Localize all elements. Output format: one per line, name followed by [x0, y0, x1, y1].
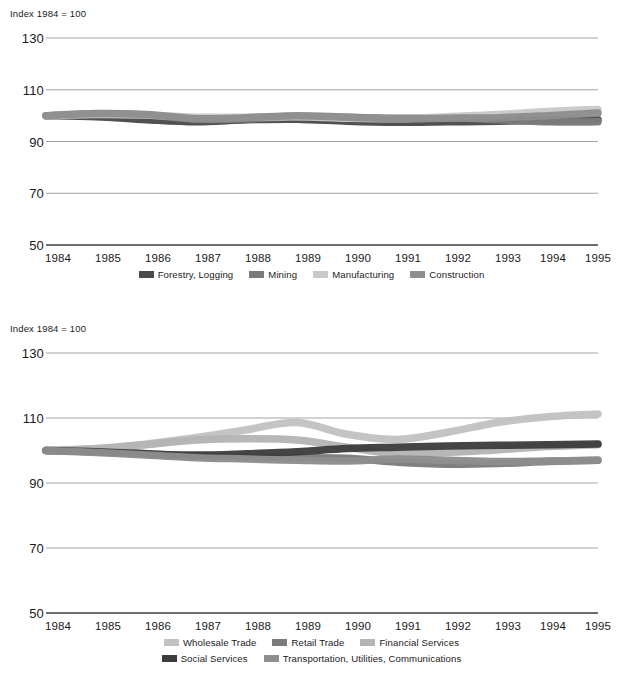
x-tick-1991: 1991 — [386, 620, 430, 632]
x-tick-1994: 1994 — [531, 252, 575, 264]
x-tick-1988: 1988 — [236, 620, 280, 632]
y-tick-50: 50 — [8, 238, 44, 253]
x-tick-1985: 1985 — [86, 252, 130, 264]
legend-swatch-icon — [360, 639, 375, 646]
legend-swatch-icon — [249, 271, 264, 278]
legend-item-wholesale-trade[interactable]: Wholesale Trade — [164, 636, 257, 649]
line-chart-industrial — [0, 0, 623, 260]
legend-label: Construction — [429, 268, 484, 281]
legend-swatch-icon — [139, 271, 154, 278]
legend-item-forestry-logging[interactable]: Forestry, Logging — [139, 268, 234, 281]
y-tick-110: 110 — [8, 411, 44, 426]
line-chart-services — [0, 315, 623, 645]
x-tick-1991: 1991 — [386, 252, 430, 264]
legend-swatch-icon — [264, 655, 279, 662]
x-tick-1987: 1987 — [186, 620, 230, 632]
x-tick-1992: 1992 — [436, 620, 480, 632]
x-tick-1986: 1986 — [136, 620, 180, 632]
x-tick-1990: 1990 — [336, 620, 380, 632]
legend-label: Transportation, Utilities, Communication… — [283, 652, 462, 665]
legend-label: Forestry, Logging — [158, 268, 234, 281]
legend-swatch-icon — [410, 271, 425, 278]
x-tick-1993: 1993 — [486, 252, 530, 264]
y-tick-90: 90 — [8, 135, 44, 150]
legend-item-financial-services[interactable]: Financial Services — [360, 636, 459, 649]
y-tick-90: 90 — [8, 476, 44, 491]
legend-swatch-icon — [272, 639, 287, 646]
x-tick-1990: 1990 — [336, 252, 380, 264]
y-tick-70: 70 — [8, 541, 44, 556]
x-tick-1987: 1987 — [186, 252, 230, 264]
legend-label: Mining — [268, 268, 297, 281]
x-tick-1984: 1984 — [36, 620, 80, 632]
x-tick-1995: 1995 — [576, 620, 620, 632]
legend-item-social-services[interactable]: Social Services — [162, 652, 248, 665]
x-tick-1992: 1992 — [436, 252, 480, 264]
x-tick-1995: 1995 — [576, 252, 620, 264]
legend-item-transportation-utilities-communications[interactable]: Transportation, Utilities, Communication… — [264, 652, 462, 665]
y-tick-50: 50 — [8, 606, 44, 621]
chart-panel-industrial: Index 1984 = 100 130 110 90 70 50 1984 1… — [0, 0, 623, 300]
legend-label: Manufacturing — [332, 268, 394, 281]
legend-industrial: Forestry, Logging Mining Manufacturing C… — [0, 268, 623, 281]
x-tick-1985: 1985 — [86, 620, 130, 632]
x-tick-1993: 1993 — [486, 620, 530, 632]
legend-item-retail-trade[interactable]: Retail Trade — [272, 636, 344, 649]
legend-swatch-icon — [164, 639, 179, 646]
legend-label: Retail Trade — [291, 636, 344, 649]
x-tick-1994: 1994 — [531, 620, 575, 632]
x-tick-1984: 1984 — [36, 252, 80, 264]
y-tick-130: 130 — [8, 346, 44, 361]
legend-item-mining[interactable]: Mining — [249, 268, 297, 281]
legend-label: Financial Services — [379, 636, 459, 649]
y-tick-130: 130 — [8, 31, 44, 46]
x-tick-1988: 1988 — [236, 252, 280, 264]
legend-swatch-icon — [162, 655, 177, 662]
x-tick-1986: 1986 — [136, 252, 180, 264]
y-tick-110: 110 — [8, 83, 44, 98]
x-tick-1989: 1989 — [286, 620, 330, 632]
x-tick-1989: 1989 — [286, 252, 330, 264]
legend-item-construction[interactable]: Construction — [410, 268, 484, 281]
legend-label: Social Services — [181, 652, 248, 665]
legend-item-manufacturing[interactable]: Manufacturing — [313, 268, 394, 281]
y-tick-70: 70 — [8, 186, 44, 201]
legend-services: Wholesale Trade Retail Trade Financial S… — [0, 636, 623, 665]
chart-panel-services: Index 1984 = 100 130 110 90 70 50 1984 1… — [0, 300, 623, 681]
legend-label: Wholesale Trade — [183, 636, 257, 649]
legend-swatch-icon — [313, 271, 328, 278]
